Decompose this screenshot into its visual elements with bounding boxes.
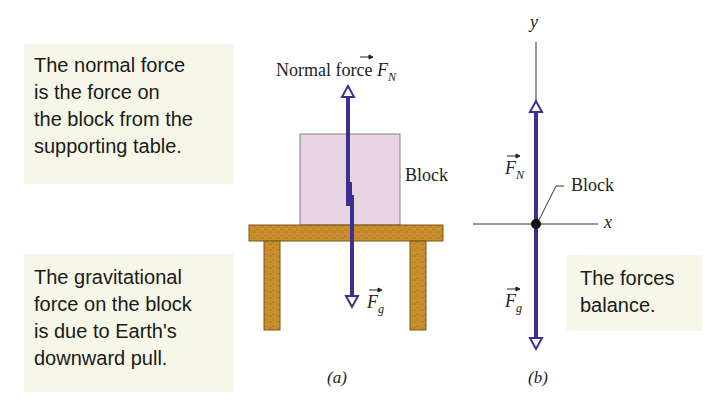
gravitational-force-label-a: Fg [367, 292, 384, 317]
normal-force-label-b: FN [505, 158, 524, 183]
table [249, 225, 443, 330]
normal-force-label: Normal force FN [276, 60, 396, 85]
block-label-a: Block [405, 165, 448, 186]
block-particle-dot [531, 219, 541, 229]
x-axis-label: x [604, 212, 612, 233]
gravitational-force-arrow-b [530, 224, 542, 349]
caption-b: (b) [528, 368, 548, 388]
normal-force-arrow-b [530, 101, 542, 224]
caption-a: (a) [327, 368, 347, 388]
gravitational-force-label-b: Fg [505, 291, 522, 316]
y-axis-label: y [530, 12, 538, 33]
block-label-b: Block [571, 175, 614, 196]
